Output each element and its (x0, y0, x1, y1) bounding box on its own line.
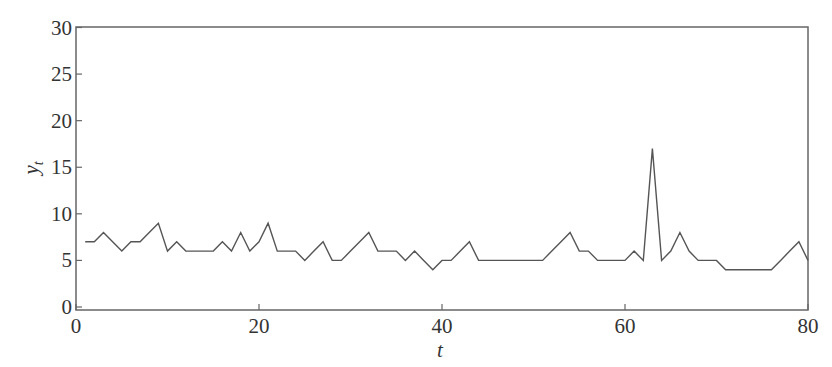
x-tick-label: 20 (249, 314, 270, 338)
y-axis-label-main: y (19, 165, 43, 177)
y-axis: 051015202530 (51, 16, 82, 320)
plot-frame (76, 27, 808, 310)
x-axis: 020406080 (71, 304, 819, 338)
x-tick-label: 40 (432, 314, 453, 338)
y-tick-label: 10 (51, 202, 72, 226)
line-chart: 051015202530 020406080 t yt (0, 0, 832, 367)
x-axis-label: t (437, 338, 444, 362)
svg-text:yt: yt (19, 160, 46, 176)
x-tick-label: 80 (798, 314, 819, 338)
x-tick-label: 0 (71, 314, 82, 338)
y-axis-label-subscript: t (31, 160, 46, 165)
y-tick-label: 15 (51, 155, 72, 179)
y-axis-label: yt (19, 160, 46, 176)
x-tick-label: 60 (615, 314, 636, 338)
y-tick-label: 20 (51, 109, 72, 133)
y-tick-label: 30 (51, 16, 72, 40)
series-line-y_t (85, 149, 808, 270)
y-tick-label: 5 (62, 248, 73, 272)
y-tick-label: 25 (51, 62, 72, 86)
